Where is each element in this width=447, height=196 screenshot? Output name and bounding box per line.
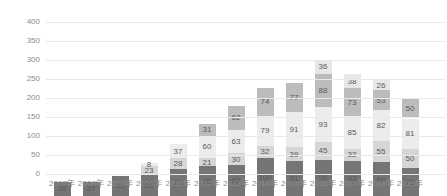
bar-segment: 96: [315, 160, 332, 196]
bar-segment: 32: [257, 146, 274, 158]
bar-segment: 50: [402, 99, 419, 118]
bar-segment: 38: [344, 74, 361, 88]
bar-segment: 26: [373, 80, 390, 90]
bar-2014: 100327974: [257, 22, 274, 196]
bar-segment: 74: [257, 88, 274, 116]
bar-2007: 38: [54, 22, 71, 196]
x-axis-label: 2019年: [388, 179, 432, 189]
y-tick-label: 350: [0, 36, 40, 46]
bar-2009: 53: [112, 22, 129, 196]
gridline: [46, 155, 445, 156]
bar-2017: 9332857338: [344, 22, 361, 196]
bar-segment: 93: [315, 107, 332, 142]
gridline: [46, 79, 445, 80]
bar-segment: 31: [199, 124, 216, 136]
segment-value-label: 50: [396, 104, 425, 113]
y-tick-label: 0: [0, 169, 40, 179]
bar-2012: 78216031: [199, 22, 216, 196]
bar-2010: 56238: [141, 22, 158, 196]
segment-value-label: 53: [367, 96, 396, 105]
bar-segment: 73: [344, 88, 361, 116]
bar-segment: 28: [170, 158, 187, 169]
gridline: [46, 60, 445, 61]
bar-segment: 79: [257, 116, 274, 146]
segment-value-label: 73: [338, 98, 367, 107]
bar-segment: 81: [402, 119, 419, 150]
gridline: [46, 22, 445, 23]
y-tick-label: 200: [0, 93, 40, 103]
gridline: [46, 117, 445, 118]
y-tick-label: 150: [0, 112, 40, 122]
bar-2016: 9645938836: [315, 22, 332, 196]
segment-value-label: 88: [309, 86, 338, 95]
bar-2011: 712837: [170, 22, 187, 196]
bar-2008: 37: [83, 22, 100, 196]
segment-value-label: 82: [367, 121, 396, 130]
y-tick-label: 250: [0, 74, 40, 84]
bar-segment: 21: [199, 158, 216, 166]
bar-segment: 36: [315, 60, 332, 74]
segment-value-label: 91: [280, 125, 309, 134]
bar-segment: 53: [373, 90, 390, 110]
bar-segment: 100: [257, 158, 274, 196]
segment-value-label: 28: [164, 159, 193, 168]
bar-segment: 45: [315, 142, 332, 159]
segment-value-label: 79: [251, 126, 280, 135]
bar-segment: 55: [373, 141, 390, 162]
bar-2013: 82306362: [228, 22, 245, 196]
bar-2015: 91399177: [286, 22, 303, 196]
bar-segment: 37: [170, 144, 187, 158]
stacked-bar-chart: 050100150200250300350400 383753562387128…: [0, 0, 447, 196]
gridline: [46, 98, 445, 99]
bar-segment: 50: [402, 149, 419, 168]
segment-value-label: 8: [135, 160, 164, 169]
y-tick-label: 100: [0, 131, 40, 141]
y-tick-label: 400: [0, 17, 40, 27]
segment-value-label: 36: [309, 62, 338, 71]
gridline: [46, 174, 445, 175]
segment-value-label: 21: [193, 158, 222, 167]
segment-value-label: 26: [367, 81, 396, 90]
segment-value-label: 60: [193, 142, 222, 151]
bar-2018: 8955825326: [373, 22, 390, 196]
segment-value-label: 31: [193, 125, 222, 134]
segment-value-label: 93: [309, 120, 338, 129]
segment-value-label: 81: [396, 129, 425, 138]
y-tick-label: 50: [0, 150, 40, 160]
y-tick-label: 300: [0, 55, 40, 65]
bar-segment: 63: [228, 130, 245, 154]
segment-value-label: 63: [222, 137, 251, 146]
bar-segment: 8: [141, 163, 158, 166]
bar-2019: 73508150: [402, 22, 419, 196]
gridline: [46, 136, 445, 137]
bar-segment: 85: [344, 116, 361, 148]
gridline: [46, 41, 445, 42]
